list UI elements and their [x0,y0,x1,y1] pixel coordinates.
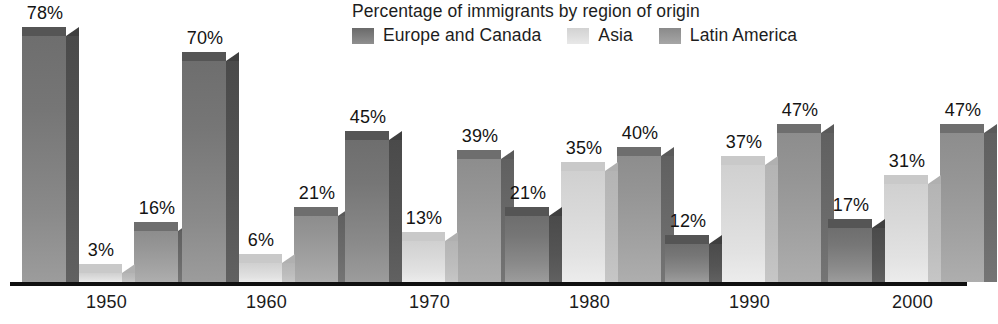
x-axis-label-1960: 1960 [182,291,351,313]
bar-value-label-europe-and-canada-1980: 21% [493,183,563,204]
bar-group-1970: 45%13%39%1970 [345,0,514,324]
bar-asia-1960[interactable]: 6% [238,263,282,282]
bar-value-label-europe-and-canada-1950: 78% [10,3,80,24]
bar-value-label-europe-and-canada-1970: 45% [333,107,403,128]
bar-side-face [605,171,618,282]
bar-top-bevel [66,27,79,36]
bar-asia-2000[interactable]: 31% [884,184,928,282]
bar-value-label-latin-america-1990: 47% [765,100,835,121]
bar-group-1950: 78%3%16%1950 [22,0,191,324]
bar-front-face [401,241,445,282]
bar-top-face [884,175,928,184]
bar-latin-america-1970[interactable]: 39% [457,159,501,282]
bar-side-face [122,273,135,282]
bar-top-face [457,150,501,159]
bar-top-face [345,131,389,140]
bar-top-face [134,222,178,231]
bar-side-face [709,244,722,282]
bar-top-bevel [226,52,239,61]
bar-front-face [665,244,709,282]
bar-top-face [401,232,445,241]
bar-latin-america-1990[interactable]: 47% [777,133,821,282]
bar-asia-1990[interactable]: 37% [721,165,765,282]
bar-top-bevel [389,131,402,140]
bar-value-label-latin-america-1960: 21% [282,183,352,204]
bar-top-face [828,219,872,228]
x-axis-label-1990: 1990 [665,291,834,313]
bar-europe-and-canada-1950[interactable]: 78% [22,36,66,282]
bar-front-face [182,61,226,282]
bar-value-label-asia-1990: 37% [709,132,779,153]
bar-top-face [238,254,282,263]
bar-front-face [78,273,122,282]
bar-front-face [828,228,872,282]
bar-front-face [561,171,605,282]
bar-side-face [226,61,239,282]
bar-side-face [282,263,295,282]
bar-europe-and-canada-1990[interactable]: 12% [665,244,709,282]
bar-top-face [561,162,605,171]
bar-europe-and-canada-2000[interactable]: 17% [828,228,872,282]
bar-side-face [984,133,997,282]
bar-top-face [665,235,709,244]
bar-top-face [777,124,821,133]
bar-value-label-europe-and-canada-2000: 17% [816,195,886,216]
bar-value-label-asia-1980: 35% [549,138,619,159]
bar-europe-and-canada-1980[interactable]: 21% [505,216,549,282]
x-axis-label-1950: 1950 [22,291,191,313]
bar-value-label-europe-and-canada-1960: 70% [170,28,240,49]
bar-top-face [78,264,122,273]
bar-side-face [872,228,885,282]
bar-latin-america-1960[interactable]: 21% [294,216,338,282]
bar-group-1990: 12%37%47%1990 [665,0,834,324]
bar-asia-1980[interactable]: 35% [561,171,605,282]
bar-front-face [345,140,389,282]
bar-latin-america-2000[interactable]: 47% [940,133,984,282]
bar-front-face [238,263,282,282]
x-axis-label-2000: 2000 [828,291,997,313]
bar-value-label-latin-america-1970: 39% [445,126,515,147]
bar-top-face [940,124,984,133]
bar-top-face [22,27,66,36]
bar-europe-and-canada-1960[interactable]: 70% [182,61,226,282]
bar-group-1960: 70%6%21%1960 [182,0,351,324]
bar-front-face [505,216,549,282]
bar-value-label-latin-america-2000: 47% [928,100,998,121]
bar-group-2000: 17%31%47%2000 [828,0,997,324]
bar-side-face [445,241,458,282]
bar-front-face [294,216,338,282]
bar-value-label-asia-2000: 31% [872,151,942,172]
bar-top-face [617,147,661,156]
bar-side-face [765,165,778,282]
bar-front-face [940,133,984,282]
bar-front-face [884,184,928,282]
x-axis-label-1970: 1970 [345,291,514,313]
bar-asia-1950[interactable]: 3% [78,273,122,282]
bar-front-face [134,231,178,282]
bar-group-1980: 21%35%40%1980 [505,0,674,324]
bar-front-face [457,159,501,282]
bar-top-face [182,52,226,61]
x-axis-label-1980: 1980 [505,291,674,313]
bar-asia-1970[interactable]: 13% [401,241,445,282]
bar-front-face [777,133,821,282]
bar-top-face [721,156,765,165]
bar-top-face [294,207,338,216]
bar-top-bevel [122,264,135,273]
bar-side-face [549,216,562,282]
bar-europe-and-canada-1970[interactable]: 45% [345,140,389,282]
bar-front-face [22,36,66,282]
bar-side-face [66,36,79,282]
bar-top-bevel [984,124,997,133]
bar-side-face [389,140,402,282]
bar-latin-america-1950[interactable]: 16% [134,231,178,282]
bar-front-face [721,165,765,282]
bar-side-face [928,184,941,282]
bar-value-label-europe-and-canada-1990: 12% [653,211,723,232]
bar-top-face [505,207,549,216]
